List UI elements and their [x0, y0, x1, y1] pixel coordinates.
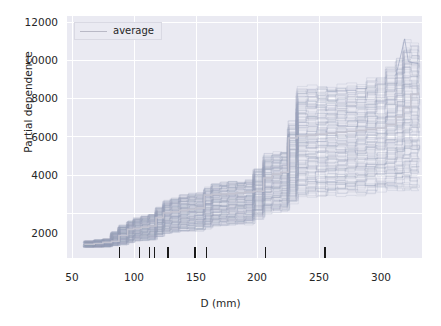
rug-mark — [119, 247, 120, 258]
rug-mark — [194, 247, 195, 258]
x-tick-label-300: 300 — [351, 272, 411, 283]
y-tick-label-4000: 4000 — [0, 170, 58, 181]
rug-mark — [154, 247, 155, 258]
x-tick-label-100: 100 — [104, 272, 164, 283]
plot-area — [67, 16, 422, 258]
x-tick-label-250: 250 — [289, 272, 349, 283]
ice-curves — [67, 16, 422, 258]
rug-mark — [265, 247, 266, 258]
partial-dependence-figure: Partial dependence 12000 10000 8000 6000… — [0, 0, 441, 326]
y-tick-label-10000: 10000 — [0, 55, 58, 66]
y-tick-label-2000: 2000 — [0, 228, 58, 239]
rug-mark — [139, 247, 140, 258]
x-axis-label: D (mm) — [0, 297, 441, 309]
rug-mark — [324, 247, 325, 258]
legend: average — [74, 22, 162, 40]
rug-mark — [206, 247, 207, 258]
rug-mark — [167, 247, 168, 258]
y-tick-label-12000: 12000 — [0, 17, 58, 28]
x-tick-label-50: 50 — [42, 272, 102, 283]
y-tick-label-6000: 6000 — [0, 132, 58, 143]
x-tick-label-150: 150 — [166, 272, 226, 283]
x-tick-label-200: 200 — [227, 272, 287, 283]
rug-mark — [149, 247, 150, 258]
y-tick-label-8000: 8000 — [0, 93, 58, 104]
legend-label-average: average — [113, 26, 154, 36]
legend-line-average — [80, 31, 107, 32]
